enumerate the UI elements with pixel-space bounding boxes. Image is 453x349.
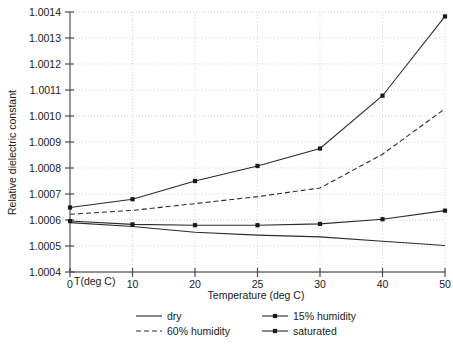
series-marker — [193, 179, 197, 183]
y-axis-tick-label: 1.0006 — [29, 214, 61, 226]
x-axis-tick-label: 20 — [189, 278, 201, 290]
legend-item-saturated: saturated — [262, 325, 337, 337]
series-marker — [380, 94, 384, 98]
series-marker — [443, 14, 447, 18]
x-axis-corner-label: T(deg C) — [74, 275, 115, 287]
y-axis-tick-label: 1.0013 — [29, 32, 61, 44]
series-path — [70, 211, 445, 226]
legend-label: dry — [167, 310, 182, 322]
series-marker — [130, 222, 134, 226]
legend-label: 60% humidity — [167, 325, 231, 337]
series-marker — [130, 197, 134, 201]
series-marker — [255, 164, 259, 168]
chart-canvas: 1.00141.00131.00121.00111.00101.00091.00… — [0, 0, 453, 349]
y-axis-tick-label: 1.0014 — [29, 6, 61, 18]
y-axis-tick-label: 1.0010 — [29, 110, 61, 122]
series-marker — [255, 223, 259, 227]
y-axis-title: Relative dielectric constant — [6, 90, 18, 215]
x-axis-tick-label: 40 — [377, 278, 389, 290]
x-axis-tick-label: 10 — [127, 278, 139, 290]
y-axis-tick-label: 1.0011 — [30, 84, 61, 96]
y-axis-tick-labels: 1.00141.00131.00121.00111.00101.00091.00… — [29, 6, 61, 278]
series-marker — [193, 223, 197, 227]
series-marker — [318, 146, 322, 150]
series-15-humidity — [68, 209, 447, 228]
series-marker — [68, 205, 72, 209]
legend-item-60-humidity: 60% humidity — [136, 325, 231, 337]
legend-item-dry: dry — [136, 310, 182, 322]
y-axis-tick-label: 1.0008 — [29, 162, 61, 174]
legend-swatch-marker — [273, 314, 277, 318]
legend-label: saturated — [293, 325, 337, 337]
series-marker — [318, 222, 322, 226]
legend-item-15-humidity: 15% humidity — [262, 310, 357, 322]
relative-dielectric-constant-chart: 1.00141.00131.00121.00111.00101.00091.00… — [0, 0, 453, 349]
x-axis-tick-label: 30 — [314, 278, 326, 290]
y-axis-tick-label: 1.0004 — [29, 266, 61, 278]
series-marker — [68, 219, 72, 223]
y-axis-tick-label: 1.0005 — [29, 240, 61, 252]
y-axis-tick-label: 1.0009 — [29, 136, 61, 148]
series-marker — [380, 217, 384, 221]
x-axis-tick-label: 0 — [67, 278, 73, 290]
chart-legend: dry15% humidity60% humiditysaturated — [136, 310, 357, 337]
y-axis-tick-label: 1.0007 — [29, 188, 61, 200]
legend-label: 15% humidity — [293, 310, 357, 322]
x-axis-title: Temperature (deg C) — [208, 289, 305, 301]
series-marker — [443, 209, 447, 213]
x-axis-tick-label: 50 — [439, 278, 451, 290]
legend-swatch-marker — [273, 329, 277, 333]
y-axis-tick-label: 1.0012 — [29, 58, 61, 70]
